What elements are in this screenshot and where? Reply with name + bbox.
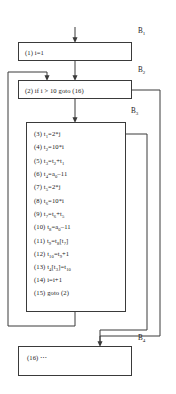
control-flow-graph: (1) i=1 B1 (2) if i > 10 goto (16) B2 (3… — [0, 0, 176, 394]
statement-5-head: (5) t — [34, 157, 46, 164]
block-label-b1: B1 — [138, 27, 145, 35]
statement-11: (11) t9=t8[t7] — [34, 237, 71, 244]
statement-9-sub: 7 — [46, 214, 48, 219]
statement-11-head: (11) t — [34, 237, 49, 244]
statement-4: (4) t2=10*i — [34, 143, 71, 150]
statement-3-tail: =2*j — [48, 130, 61, 137]
basic-block-b4[interactable]: (16) ⋯ — [18, 346, 132, 376]
statement-6-head: (6) t — [34, 170, 46, 177]
statement-8-tail: =10*i — [48, 197, 64, 204]
statement-15: (15) goto (2) — [34, 289, 71, 296]
statement-7: (7) t5=2*j — [34, 183, 71, 190]
statement-10-sub: 8 — [49, 228, 51, 233]
statement-8: (8) t6=10*i — [34, 197, 71, 204]
statement-12-head: (12) t — [34, 250, 49, 257]
statement-3-head: (3) t — [34, 130, 46, 137]
statement-5: (5) t3=t2+t1 — [34, 157, 71, 164]
statement-list-b3: (3) t1=2*j (4) t2=10*i (5) t3=t2+t1 (6) … — [34, 130, 71, 302]
basic-block-b1[interactable]: (1) i=1 — [18, 42, 132, 61]
statement-4-tail: =10*i — [48, 143, 64, 150]
statement-16: (16) ⋯ — [27, 354, 47, 361]
statement-11-sub: 9 — [49, 241, 51, 246]
statement-13: (13) t4[t3]=t10 — [34, 263, 71, 270]
statement-5-sub: 3 — [46, 161, 48, 166]
statement-7-head: (7) t — [34, 183, 46, 190]
statement-8-head: (8) t — [34, 197, 46, 204]
statement-13-sub: 4 — [49, 267, 51, 272]
statement-7-tail: =2*j — [48, 183, 61, 190]
block-label-b4: B4 — [138, 334, 145, 342]
statement-14: (14) i=i+1 — [34, 276, 71, 283]
statement-3: (3) t1=2*j — [34, 130, 71, 137]
statement-10: (10) t8=a0–11 — [34, 223, 71, 230]
statement-2: (2) if i > 10 goto (16) — [25, 87, 84, 94]
statement-12-sub: 10 — [49, 254, 54, 259]
statement-13-head: (13) t — [34, 263, 49, 270]
block-label-b1-sub: 1 — [143, 31, 146, 36]
statement-12: (12) t10=t9+1 — [34, 250, 71, 257]
statement-10-head: (10) t — [34, 223, 49, 230]
statement-6: (6) t4=a0–11 — [34, 170, 71, 177]
block-label-b3: B3 — [131, 107, 138, 115]
statement-6-sub: 4 — [46, 174, 48, 179]
statement-1: (1) i=1 — [25, 49, 44, 56]
basic-block-b3[interactable]: (3) t1=2*j (4) t2=10*i (5) t3=t2+t1 (6) … — [26, 122, 126, 312]
statement-4-head: (4) t — [34, 143, 46, 150]
statement-9: (9) t7=t6+t5 — [34, 210, 71, 217]
statement-9-head: (9) t — [34, 210, 46, 217]
basic-block-b2[interactable]: (2) if i > 10 goto (16) — [18, 80, 132, 99]
block-label-b3-sub: 3 — [136, 111, 139, 116]
block-label-b2: B2 — [138, 66, 145, 74]
block-label-b2-sub: 2 — [143, 70, 146, 75]
block-label-b4-sub: 4 — [143, 338, 146, 343]
